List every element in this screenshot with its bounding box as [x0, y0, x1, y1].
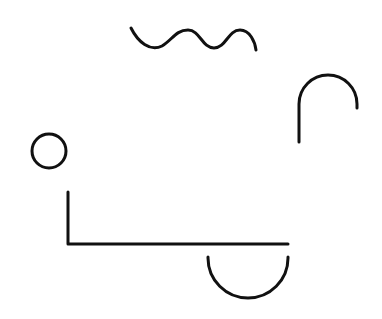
small-circle — [32, 134, 66, 168]
drawing-canvas — [0, 0, 382, 319]
l-shape — [68, 192, 288, 244]
bowl-semicircle — [208, 257, 288, 298]
arch-hook — [299, 75, 357, 142]
wave-curve — [131, 28, 256, 50]
line-drawing — [0, 0, 382, 319]
